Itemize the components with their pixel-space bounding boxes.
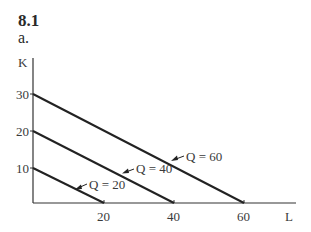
x-tick-40: 40 — [167, 209, 180, 224]
y-tick-30: 30 — [16, 87, 29, 102]
x-tick-20: 20 — [97, 209, 110, 224]
label-q60: Q = 60 — [186, 149, 222, 164]
arrow-icon-q20 — [75, 184, 87, 190]
x-axis-label: L — [285, 209, 293, 224]
y-tick-20: 20 — [16, 124, 29, 139]
y-tick-10: 10 — [16, 161, 29, 176]
label-q20: Q = 20 — [89, 177, 125, 192]
label-q40: Q = 40 — [136, 161, 172, 176]
arrow-icon-q60 — [171, 156, 184, 162]
arrow-icon-q40 — [122, 169, 134, 174]
isoquant-chart: K L 30 20 10 20 40 60 Q = 20 Q = 40 Q = … — [0, 0, 311, 232]
x-tick-60: 60 — [237, 209, 250, 224]
y-axis-label: K — [18, 55, 28, 70]
